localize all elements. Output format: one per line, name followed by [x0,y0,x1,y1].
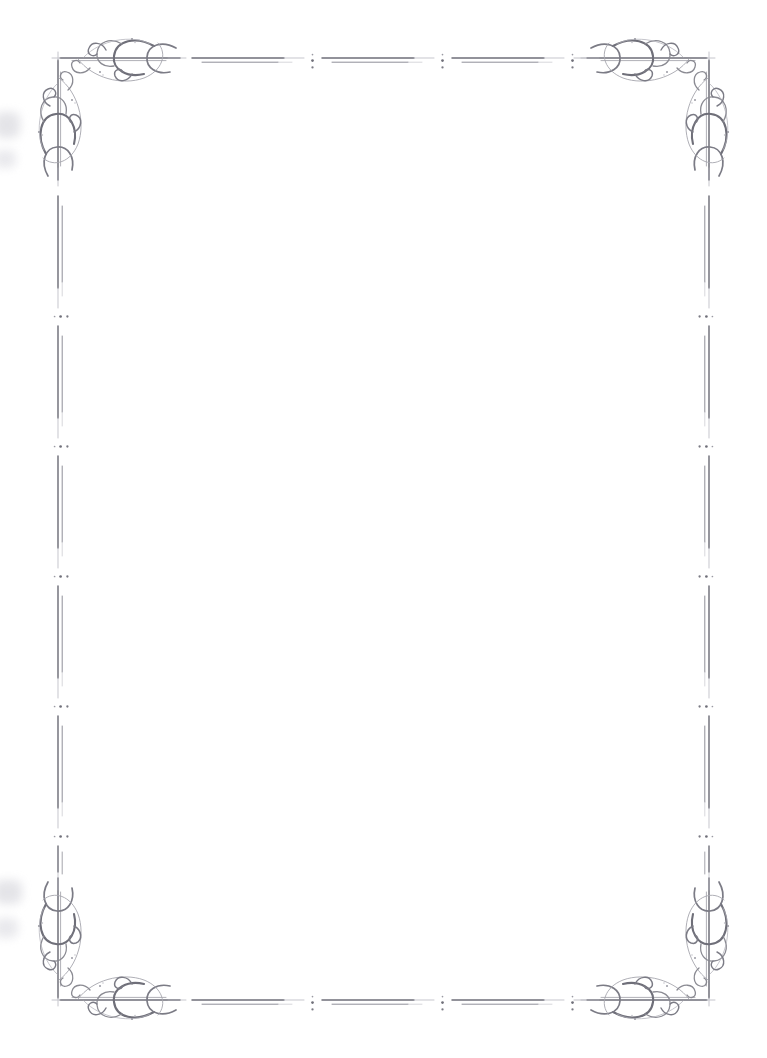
border-rule-bottom [192,996,586,1011]
border-rule-top [192,54,586,69]
paper-smudge-artifacts [0,112,22,938]
border-rule-left [54,196,69,874]
page-canvas [0,0,767,1058]
border-rule-right [698,196,713,874]
frame-interior-content-area [90,80,677,978]
